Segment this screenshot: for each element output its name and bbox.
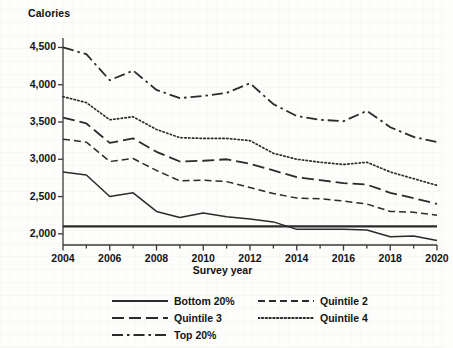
y-tick-label: 4,500: [8, 40, 56, 52]
series-line: [63, 47, 437, 142]
x-tick-label: 2016: [320, 252, 368, 264]
chart-legend: Bottom 20%Quintile 2Quintile 3Quintile 4…: [112, 292, 394, 343]
x-tick-label: 2020: [413, 252, 453, 264]
series-line: [63, 118, 437, 204]
y-tick-label: 4,000: [8, 78, 56, 90]
legend-label: Quintile 3: [174, 312, 222, 324]
y-tick-label: 3,000: [8, 152, 56, 164]
legend-line-swatch: [258, 313, 314, 323]
series-lines: [63, 47, 437, 240]
y-tick-label: 2,000: [8, 227, 56, 239]
legend-label: Bottom 20%: [174, 295, 235, 307]
series-line: [63, 97, 437, 186]
legend-item-quintile-4[interactable]: Quintile 4: [258, 312, 394, 324]
legend-line-swatch: [112, 296, 168, 306]
legend-item-quintile-3[interactable]: Quintile 3: [112, 312, 258, 324]
x-tick-label: 2010: [179, 252, 227, 264]
legend-line-swatch: [112, 330, 168, 340]
x-tick-label: 2006: [86, 252, 134, 264]
x-tick-label: 2008: [133, 252, 181, 264]
legend-label: Quintile 2: [320, 295, 368, 307]
x-axis-title: Survey year: [0, 264, 445, 276]
x-tick-label: 2014: [273, 252, 321, 264]
legend-line-swatch: [112, 313, 168, 323]
x-tick-label: 2004: [39, 252, 87, 264]
x-tick-label: 2018: [366, 252, 414, 264]
legend-label: Top 20%: [174, 329, 216, 341]
legend-item-top-20[interactable]: Top 20%: [112, 329, 258, 341]
legend-line-swatch: [258, 296, 314, 306]
legend-item-bottom-20[interactable]: Bottom 20%: [112, 295, 258, 307]
y-tick-label: 2,500: [8, 190, 56, 202]
series-line: [63, 172, 437, 241]
legend-label: Quintile 4: [320, 312, 368, 324]
series-line: [63, 139, 437, 215]
x-tick-label: 2012: [226, 252, 274, 264]
legend-item-quintile-2[interactable]: Quintile 2: [258, 295, 394, 307]
y-tick-label: 3,500: [8, 115, 56, 127]
